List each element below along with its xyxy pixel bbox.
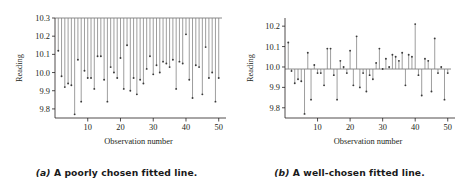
data-point (434, 37, 436, 39)
x-tick-label: 10 (313, 123, 321, 132)
data-point (100, 55, 102, 57)
data-point (362, 72, 364, 74)
y-tick-label: 10.1 (35, 50, 50, 59)
data-point (326, 48, 328, 50)
panel-a-plot: 9.89.910.010.110.210.31020304050Observat… (0, 0, 233, 160)
data-point (106, 101, 108, 103)
y-tick-label: 9.9 (40, 87, 50, 96)
y-tick-label: 10.3 (35, 14, 50, 23)
data-point (411, 56, 413, 58)
data-point (313, 64, 315, 66)
data-point (77, 59, 79, 61)
data-point (139, 79, 141, 81)
y-tick-label: 10.2 (35, 32, 50, 41)
data-point (152, 73, 154, 75)
data-point (352, 84, 354, 86)
panel-b-plot: 9.89.910.010.110.21020304050Observation … (233, 0, 466, 160)
x-tick-label: 50 (444, 123, 452, 132)
data-point (136, 93, 138, 95)
x-tick-label: 40 (411, 123, 419, 132)
data-point (67, 83, 69, 85)
data-point (391, 54, 393, 56)
data-point (440, 66, 442, 68)
data-point (300, 80, 302, 82)
x-tick-label: 20 (116, 123, 124, 132)
data-point (447, 72, 449, 74)
data-point (57, 50, 59, 52)
data-point (388, 66, 390, 68)
data-point (188, 79, 190, 81)
panel-a-caption-text: A poorly chosen fitted line. (54, 167, 197, 178)
data-point (162, 61, 164, 63)
data-point (382, 68, 384, 70)
panel-a-caption-label: (a) (36, 167, 51, 178)
y-axis-title: Reading (15, 53, 24, 82)
data-point (74, 113, 76, 115)
data-point (165, 63, 167, 65)
x-tick-label: 30 (149, 123, 157, 132)
data-point (103, 79, 105, 81)
data-point (64, 86, 66, 88)
y-tick-label: 9.8 (270, 104, 280, 113)
data-point (287, 42, 289, 44)
data-point (169, 66, 171, 68)
plot-area: 9.89.910.010.110.21020304050Observation … (246, 18, 455, 146)
data-point (218, 77, 220, 79)
x-tick-label: 40 (182, 123, 190, 132)
data-point (317, 72, 319, 74)
data-point (346, 72, 348, 74)
data-point (159, 72, 161, 74)
data-point (444, 99, 446, 101)
data-point (192, 97, 194, 99)
plot-area: 9.89.910.010.110.210.31020304050Observat… (15, 14, 226, 146)
x-axis-title: Observation number (334, 137, 403, 146)
data-point (146, 68, 148, 70)
data-point (395, 56, 397, 58)
data-point (378, 48, 380, 50)
data-point (208, 77, 210, 79)
data-point (414, 23, 416, 25)
x-tick-label: 50 (215, 123, 223, 132)
x-axis-title: Observation number (104, 137, 173, 146)
data-point (291, 70, 293, 72)
data-point (80, 101, 82, 103)
panel-b-caption: (b) A well-chosen fitted line. (233, 167, 466, 178)
data-point (195, 64, 197, 66)
data-point (365, 91, 367, 93)
data-point (149, 55, 151, 57)
panel-b-caption-label: (b) (274, 167, 289, 178)
data-point (133, 77, 135, 79)
data-point (84, 70, 86, 72)
x-tick-label: 30 (378, 123, 386, 132)
data-point (175, 88, 177, 90)
data-point (61, 75, 63, 77)
data-point (424, 58, 426, 60)
data-point (185, 33, 187, 35)
data-point (215, 101, 217, 103)
data-point (408, 54, 410, 56)
data-point (356, 35, 358, 37)
data-point (201, 93, 203, 95)
data-point (359, 86, 361, 88)
data-point (421, 95, 423, 97)
data-point (116, 77, 118, 79)
y-tick-label: 10.0 (265, 63, 280, 72)
panel-a: 9.89.910.010.110.210.31020304050Observat… (0, 0, 233, 186)
data-point (304, 113, 306, 115)
data-point (126, 44, 128, 46)
data-point (339, 60, 341, 62)
data-point (349, 50, 351, 52)
data-point (123, 88, 125, 90)
data-point (398, 60, 400, 62)
data-point (431, 91, 433, 93)
data-point (294, 82, 296, 84)
data-point (369, 74, 371, 76)
data-point (297, 78, 299, 80)
data-point (110, 66, 112, 68)
data-point (211, 72, 213, 74)
data-point (310, 99, 312, 101)
data-point (70, 84, 72, 86)
data-point (178, 61, 180, 63)
data-point (320, 72, 322, 74)
x-tick-label: 10 (84, 123, 92, 132)
